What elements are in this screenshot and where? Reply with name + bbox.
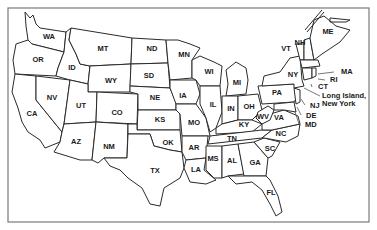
- leader-line-ri: [318, 79, 325, 80]
- state-label-id: ID: [68, 63, 76, 72]
- state-label-fl: FL: [266, 188, 276, 197]
- state-label-ms: MS: [207, 154, 218, 163]
- state-label-ok: OK: [162, 138, 174, 147]
- state-label-pa: PA: [272, 88, 282, 97]
- state-shape-ct: [302, 68, 312, 80]
- leader-line-de: [297, 107, 301, 115]
- state-label-wi: WI: [204, 67, 213, 76]
- state-label-or: OR: [32, 55, 44, 64]
- leader-line-ma: [318, 72, 334, 74]
- state-label-ca: CA: [27, 109, 38, 118]
- state-label-in: IN: [227, 104, 235, 113]
- state-label-oh: OH: [243, 102, 254, 111]
- state-label-ma: MA: [341, 67, 353, 76]
- state-shape-ma: [300, 60, 320, 68]
- state-label-ut: UT: [76, 101, 86, 110]
- state-label-ri: RI: [330, 75, 338, 84]
- state-label-wa: WA: [43, 32, 56, 41]
- long-island-label-line2: New York: [322, 99, 356, 108]
- state-label-sc: SC: [265, 144, 276, 153]
- state-label-wv: WV: [257, 112, 269, 121]
- state-label-ks: KS: [155, 115, 165, 124]
- state-label-sd: SD: [144, 71, 155, 80]
- state-label-al: AL: [227, 156, 237, 165]
- us-map: WAORCANVIDMTWYUTCOAZNMNDSDNEKSOKTXMNIAMO…: [0, 0, 377, 230]
- state-shape-ri: [312, 68, 316, 78]
- state-label-nm: NM: [103, 142, 115, 151]
- state-label-ar: AR: [189, 143, 200, 152]
- leader-line-ct: [311, 84, 312, 87]
- state-label-mn: MN: [178, 50, 190, 59]
- state-label-de: DE: [306, 111, 316, 120]
- state-label-wy: WY: [105, 76, 117, 85]
- state-label-ia: IA: [179, 91, 187, 100]
- state-label-nd: ND: [147, 44, 158, 53]
- state-label-ny: NY: [288, 70, 298, 79]
- state-shape-md: [274, 102, 296, 112]
- state-label-mi: MI: [233, 78, 241, 87]
- state-label-mo: MO: [188, 118, 200, 127]
- state-label-ky: KY: [239, 120, 249, 129]
- state-shape-me: [310, 16, 350, 60]
- state-label-nh: NH: [295, 38, 306, 47]
- state-label-nc: NC: [276, 129, 287, 138]
- state-label-la: LA: [191, 165, 202, 174]
- leader-line-nj: [301, 99, 305, 105]
- state-label-ct: CT: [318, 82, 328, 91]
- state-label-mt: MT: [98, 44, 109, 53]
- state-label-va: VA: [274, 113, 284, 122]
- state-label-ne: NE: [150, 93, 160, 102]
- state-label-tn: TN: [227, 134, 237, 143]
- state-label-me: ME: [322, 27, 333, 36]
- state-label-vt: VT: [281, 44, 291, 53]
- state-label-co: CO: [111, 108, 122, 117]
- state-label-nv: NV: [47, 93, 57, 102]
- state-shape-nj: [294, 88, 300, 104]
- state-label-tx: TX: [150, 166, 160, 175]
- state-label-md: MD: [305, 120, 317, 129]
- state-label-az: AZ: [71, 137, 81, 146]
- state-label-nj: NJ: [310, 101, 320, 110]
- state-label-ga: GA: [249, 158, 261, 167]
- state-label-il: IL: [210, 100, 217, 109]
